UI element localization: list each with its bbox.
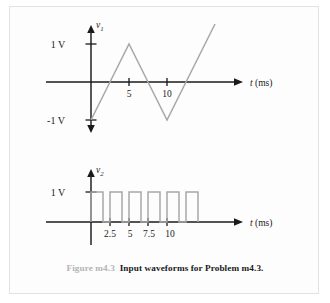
v2-voltage-axis-arrowhead bbox=[87, 169, 95, 177]
v2-xlabel-7point5: 7.5 bbox=[143, 229, 155, 239]
v1-time-axis-arrowhead bbox=[234, 78, 243, 86]
figure-caption-text: Input waveforms for Problem m4.3. bbox=[120, 263, 264, 273]
v1-voltage-axis-up-arrowhead bbox=[87, 25, 95, 33]
v2-xaxis-unit-label: t (ms) bbox=[250, 218, 272, 229]
v2-time-axis-arrowhead bbox=[234, 218, 243, 226]
v1-voltage-axis-down-arrowhead bbox=[87, 125, 95, 133]
v2-ylabel-positive-one: 1 V bbox=[51, 187, 66, 198]
v2-xlabel-2point5: 2.5 bbox=[104, 229, 116, 239]
figure-caption-label: Figure m4.3 bbox=[66, 263, 114, 273]
v2-axis-label: v2 bbox=[96, 165, 104, 177]
waveform-plots: v1 1 V -1 V 5 10 t (ms) v2 bbox=[10, 7, 320, 263]
v1-waveform-trace bbox=[91, 24, 215, 120]
v1-xlabel-5: 5 bbox=[127, 89, 132, 99]
plot-v2: v2 1 V 2.5 5 7.5 10 t (ms) bbox=[46, 165, 272, 245]
plot-v1: v1 1 V -1 V 5 10 t (ms) bbox=[46, 20, 272, 133]
figure-card: v1 1 V -1 V 5 10 t (ms) v2 bbox=[9, 6, 319, 294]
v1-xlabel-10: 10 bbox=[162, 89, 172, 99]
v1-ylabel-negative-one: -1 V bbox=[47, 115, 66, 126]
v1-axis-label: v1 bbox=[96, 20, 104, 32]
v1-xaxis-unit-label: t (ms) bbox=[250, 78, 272, 89]
figure-caption: Figure m4.3 Input waveforms for Problem … bbox=[10, 263, 320, 273]
v2-waveform-trace bbox=[91, 192, 198, 222]
v2-xlabel-5: 5 bbox=[128, 229, 133, 239]
v1-ylabel-positive-one: 1 V bbox=[51, 39, 66, 50]
v2-xlabel-10: 10 bbox=[165, 229, 175, 239]
